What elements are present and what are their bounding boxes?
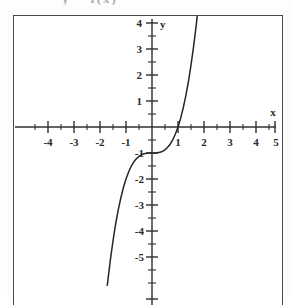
- y-tick-label: -1: [135, 147, 144, 159]
- y-axis-tick-labels: 4 3 2 1 -1 -2 -3 -4 -5: [135, 17, 145, 263]
- y-axis-label: y: [160, 18, 166, 30]
- x-tick-label: 4: [253, 136, 259, 148]
- x-axis-label: x: [270, 106, 276, 118]
- cubic-function-plot: -4 -3 -2 -1 1 2 3 4 5 4 3 2 1 -1 -2 -3 -…: [14, 16, 283, 305]
- x-tick-label: -1: [121, 136, 130, 148]
- y-tick-label: -3: [135, 199, 145, 211]
- y-tick-label: -5: [135, 251, 145, 263]
- x-tick-label: -2: [95, 136, 105, 148]
- y-tick-label: 3: [137, 43, 143, 55]
- y-tick-label: -4: [135, 225, 145, 237]
- axes-group: [15, 19, 276, 305]
- y-tick-label: -2: [135, 173, 145, 185]
- caption-text-fragment: y = f(x): [62, 0, 182, 5]
- x-tick-label: -4: [43, 136, 53, 148]
- y-tick-label: 2: [137, 69, 143, 81]
- y-tick-label: 1: [137, 95, 143, 107]
- x-axis-tick-labels: -4 -3 -2 -1 1 2 3 4 5: [43, 136, 279, 148]
- x-tick-label: 2: [201, 136, 207, 148]
- x-tick-label: 3: [227, 136, 233, 148]
- x-tick-label: 5: [273, 136, 279, 148]
- figure-frame: -4 -3 -2 -1 1 2 3 4 5 4 3 2 1 -1 -2 -3 -…: [13, 15, 283, 305]
- x-tick-label: 1: [175, 136, 181, 148]
- y-tick-label: 4: [137, 17, 143, 29]
- x-tick-label: -3: [69, 136, 79, 148]
